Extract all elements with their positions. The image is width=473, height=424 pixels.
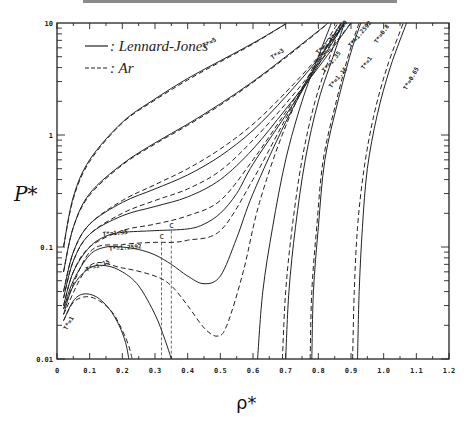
y-tick-label: 10 [45,20,53,28]
isotherm-label: T*=1 [62,315,75,331]
isotherm-t-1-8 [64,23,351,298]
x-tick-label: 0.1 [83,367,96,375]
critical-point-label: c [160,232,164,241]
x-tick-label: 0.8 [312,367,325,375]
x-tick-label: 1.1 [410,367,423,375]
isotherm-t-0-75-ar- [310,23,359,359]
x-tick-label: 1.0 [377,367,390,375]
x-tick-label: 1.2 [443,367,456,375]
isotherm-label: T*=0.65 [401,65,420,91]
x-tick-label: 0 [55,367,59,375]
y-tick-label: 0.1 [40,244,53,252]
y-tick-label: 1 [49,132,53,140]
y-axis-ticks: 0.010.1110 [36,20,449,364]
legend-label-ar: : Ar [110,60,134,76]
x-tick-label: 0.6 [247,367,260,375]
isotherm-label: T*=0.8 [372,22,390,44]
isotherm-label: T*=1.15 [84,257,111,272]
critical-point-label: c [169,221,173,230]
isotherm-t-1-liquid [258,23,332,359]
x-tick-label: 0.9 [345,367,358,375]
isotherm-label: T*=1.2592 [109,242,142,252]
critical-point-markers: cc [160,221,174,359]
isotherm-t-1-ar- [64,297,133,359]
isotherm-label: T*=1 [359,54,373,70]
legend: : Lennard-Jones : Ar [85,38,208,76]
y-tick-label: 0.01 [36,356,53,364]
x-axis-label: ρ* [236,392,256,413]
isotherm-t-0-65-ar- [353,23,404,359]
x-tick-label: 0.4 [181,367,194,375]
x-tick-label: 0.3 [149,367,162,375]
x-tick-label: 0.7 [279,367,292,375]
legend-label-lennard-jones: : Lennard-Jones [110,38,208,54]
isotherm-t-0-65 [358,23,407,359]
isotherm-t-1 [64,294,129,359]
x-tick-label: 0.2 [116,367,129,375]
y-axis-label: P* [14,182,37,206]
isotherm-t-5 [64,24,286,247]
isotherm-t-1-15-ar- [64,23,338,336]
isotherm-label: T*=1.35 [102,228,128,237]
isotherm-t-5-ar- [64,24,286,247]
isotherm-t-1-15 [64,265,172,359]
x-tick-label: 0.5 [214,367,227,375]
chart-canvas: cc T*=5T*=3T*=2T*=1.80T*=1.35T*=1.2592T*… [0,0,473,424]
isotherm-label: T*=1.15 [327,65,349,89]
isotherm-t-1-8-ar- [64,23,351,298]
